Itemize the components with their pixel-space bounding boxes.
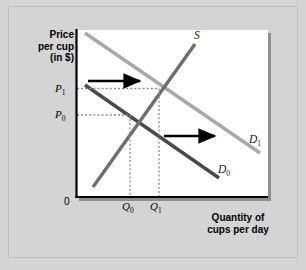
y-axis-label: Price per cup (in $) — [16, 29, 74, 64]
y-tick-p1-text: P — [55, 82, 62, 94]
x-axis-label-line2: cups per day — [186, 224, 290, 236]
y-tick-p0-text: P — [55, 108, 62, 120]
x-tick-q0: Q0 — [122, 200, 134, 215]
demand1-curve-label: D1 — [249, 133, 261, 148]
y-axis-label-line1: Price — [16, 29, 74, 41]
y-tick-p1: P1 — [55, 82, 65, 97]
x-tick-q1-text: Q — [150, 200, 158, 212]
demand0-curve — [85, 85, 219, 178]
demand1-curve-label-sub: 1 — [257, 139, 261, 148]
y-tick-p0: P0 — [55, 108, 65, 123]
origin-label: 0 — [64, 196, 70, 207]
y-axis-label-line3: (in $) — [16, 52, 74, 64]
x-axis-label: Quantity of cups per day — [186, 212, 290, 235]
demand0-curve-label: D0 — [218, 163, 230, 178]
figure-root: Price per cup (in $) Quantity of cups pe… — [0, 0, 306, 270]
demand0-curve-label-sub: 0 — [226, 169, 230, 178]
y-axis-label-line2: per cup — [16, 41, 74, 53]
x-axis-label-line1: Quantity of — [186, 212, 290, 224]
x-tick-q1-sub: 1 — [158, 206, 162, 215]
y-tick-p0-sub: 0 — [62, 114, 66, 123]
supply-curve-label-text: S — [194, 29, 200, 41]
x-tick-q0-sub: 0 — [130, 206, 134, 215]
supply-curve — [93, 44, 195, 187]
y-tick-p1-sub: 1 — [62, 88, 66, 97]
x-tick-q1: Q1 — [150, 200, 162, 215]
x-tick-q0-text: Q — [122, 200, 130, 212]
supply-curve-label: S — [194, 29, 200, 44]
